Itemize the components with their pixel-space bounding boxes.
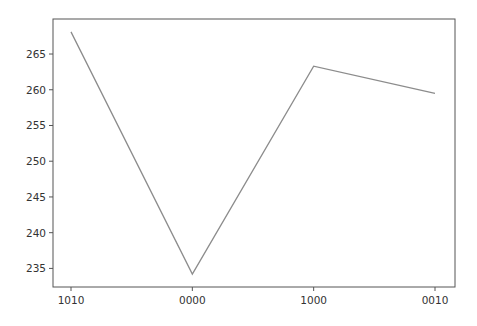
y-tick-label: 260 — [26, 84, 46, 96]
x-tick-label: 0010 — [422, 294, 449, 306]
y-tick-label: 250 — [26, 155, 46, 167]
x-tick-label: 1000 — [300, 294, 327, 306]
y-tick-label: 240 — [26, 227, 46, 239]
y-tick-label: 255 — [26, 119, 46, 131]
line-chart: 235240245250255260265 1010000010000010 — [0, 0, 477, 326]
x-axis: 1010000010000010 — [58, 287, 449, 306]
x-tick-label: 0000 — [179, 294, 206, 306]
y-tick-label: 235 — [26, 262, 46, 274]
y-tick-label: 245 — [26, 191, 46, 203]
x-tick-label: 1010 — [58, 294, 85, 306]
y-axis: 235240245250255260265 — [26, 48, 53, 274]
y-tick-label: 265 — [26, 48, 46, 60]
plot-area — [53, 19, 455, 287]
